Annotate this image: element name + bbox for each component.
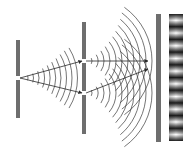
source-slit-barrier-lower — [16, 80, 20, 118]
diagram-canvas — [0, 0, 192, 157]
double-slit-barrier-lower — [82, 95, 86, 134]
source-slit-barrier — [16, 40, 20, 76]
double-slit-barrier-upper — [82, 22, 86, 59]
detection-screen — [156, 14, 161, 142]
interference-fringe-pattern — [169, 14, 183, 141]
source-wavefronts — [28, 48, 78, 108]
double-slit-diagram — [0, 0, 192, 157]
double-slit-barrier-middle — [82, 63, 86, 91]
slit-wavefronts — [91, 7, 152, 146]
